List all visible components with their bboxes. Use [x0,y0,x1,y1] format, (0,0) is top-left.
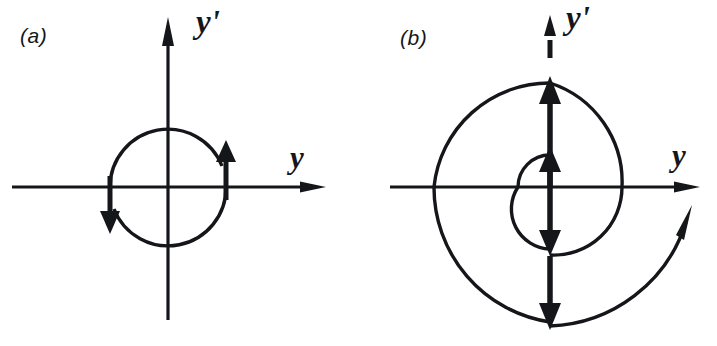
panel-a-vector-right-arrowhead [216,140,236,162]
panel-b-group [390,15,700,330]
panel-a-y-axis-arrowhead [300,182,326,193]
panel-b-y-axis-arrowhead [674,182,700,193]
panel-b-y-prime-axis-arrowhead [544,15,556,36]
diagram-artwork [0,0,717,346]
panel-b-vector-inner-down-arrowhead [539,230,561,256]
panel-a-y-prime-axis-arrowhead [162,17,174,46]
panel-a-orbit-arc-upper [110,129,222,187]
panel-a-group [12,17,326,320]
panel-b-spiral-final-sweep [550,222,686,326]
panel-b-vector-inner-up-arrowhead [539,146,561,172]
panel-b-spiral-right-turn [550,83,622,255]
panel-a-orbit-arc-lower [114,187,226,246]
panel-b-spiral-outer-turn [434,83,550,322]
panel-b-spiral-end-arrowhead [676,205,692,240]
figure-root: (a) y' y (b) y' y [0,0,717,346]
panel-b-vector-outer-up-arrowhead [539,76,561,104]
panel-a-vector-left-arrowhead [100,211,120,234]
